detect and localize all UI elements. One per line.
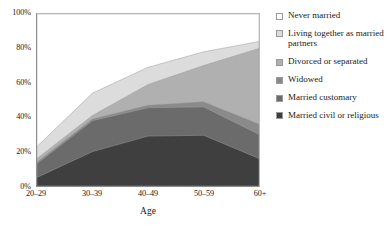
legend-swatch-icon xyxy=(276,30,283,37)
legend-item: Never married xyxy=(276,10,386,20)
legend-item: Married civil or religious xyxy=(276,110,386,120)
legend-label: Widowed xyxy=(288,74,323,84)
legend-label: Married customary xyxy=(288,92,357,102)
x-axis-tick-label: 30–39 xyxy=(82,190,102,198)
legend-item: Divorced or separated xyxy=(276,56,386,66)
x-axis-tick-label: 60+ xyxy=(254,190,267,198)
y-axis-labels: 0%20%40%60%80%100% xyxy=(0,0,34,200)
y-axis-tick-label: 80% xyxy=(0,44,31,52)
x-axis-tick-label: 20–29 xyxy=(26,190,46,198)
plot-area: 0%20%40%60%80%100% 20–2930–3940–4950–596… xyxy=(0,0,272,210)
legend-label: Divorced or separated xyxy=(288,56,367,66)
legend-swatch-icon xyxy=(276,112,283,119)
plot-frame xyxy=(36,13,260,187)
y-axis-tick-label: 20% xyxy=(0,148,31,156)
legend-label: Never married xyxy=(288,10,340,20)
legend-item: Widowed xyxy=(276,74,386,84)
x-axis-tick-label: 50–59 xyxy=(194,190,214,198)
y-axis-tick-label: 60% xyxy=(0,79,31,87)
x-axis-tick-label: 40–49 xyxy=(138,190,158,198)
y-axis-tick-label: 100% xyxy=(0,9,31,17)
x-axis-title: Age xyxy=(36,206,260,216)
legend-swatch-icon xyxy=(276,13,283,20)
legend-swatch-icon xyxy=(276,59,283,66)
legend-swatch-icon xyxy=(276,77,283,84)
y-axis-tick-label: 40% xyxy=(0,113,31,121)
legend-swatch-icon xyxy=(276,95,283,102)
legend-item: Living together as married partners xyxy=(276,28,386,49)
chart-figure: 0%20%40%60%80%100% 20–2930–3940–4950–596… xyxy=(0,0,388,237)
chart-legend: Never marriedLiving together as married … xyxy=(276,10,386,128)
legend-label: Living together as married partners xyxy=(288,28,386,49)
legend-item: Married customary xyxy=(276,92,386,102)
x-axis-labels: 20–2930–3940–4950–5960+ xyxy=(36,190,260,204)
stacked-area-series xyxy=(37,14,259,186)
legend-label: Married civil or religious xyxy=(288,110,379,120)
